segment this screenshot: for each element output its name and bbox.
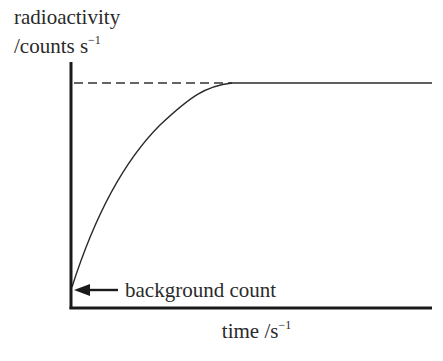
background-arrow-head-icon: [74, 284, 90, 296]
x-axis-label: time /s−1: [0, 318, 443, 344]
x-axis-unit-exponent: −1: [278, 318, 291, 332]
radioactivity-curve: [72, 83, 232, 287]
chart-plot: background count: [0, 0, 443, 361]
background-count-label: background count: [125, 278, 276, 302]
x-axis-label-text: time /s: [222, 319, 279, 343]
